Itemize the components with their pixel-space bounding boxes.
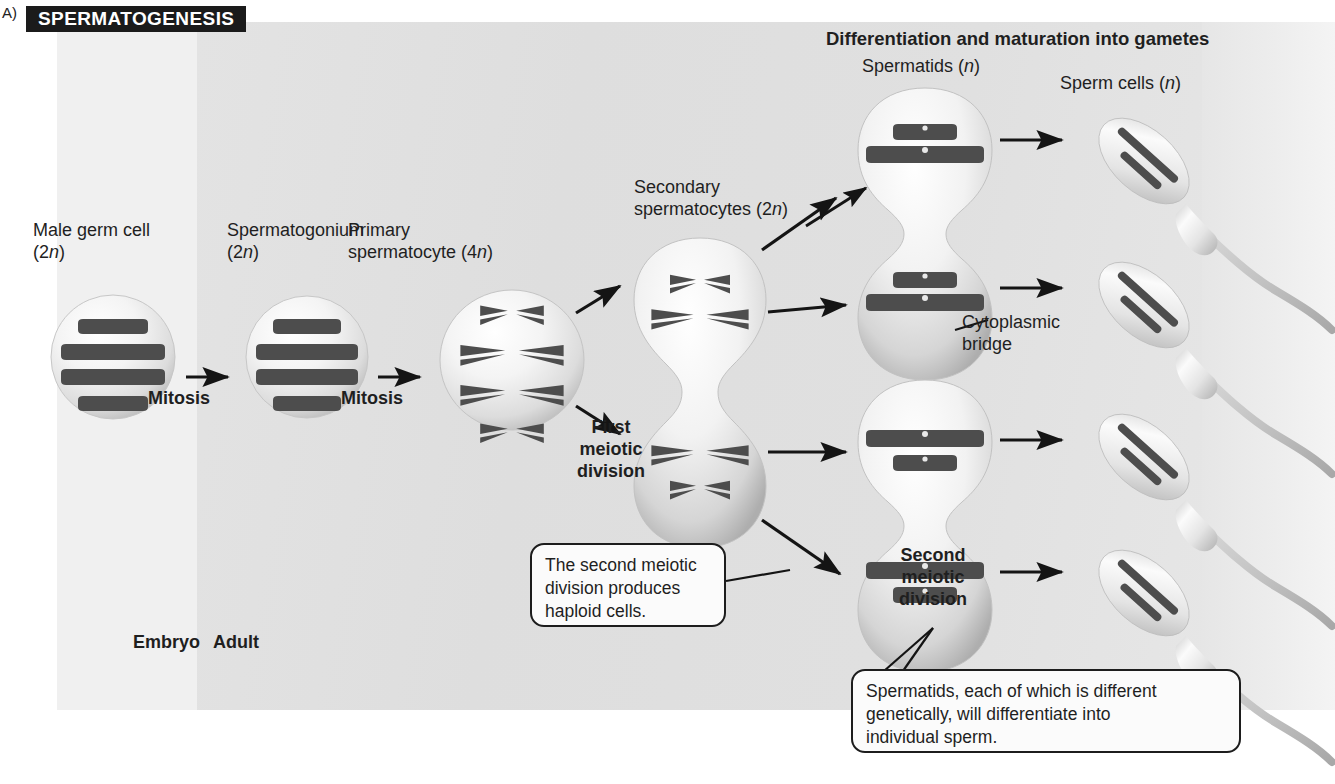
label-cytoplasmic-bridge: Cytoplasmic bridge — [962, 311, 1060, 355]
label-spermatogonium: Spermatogonium (2n) — [227, 219, 364, 263]
figure-title: SPERMATOGENESIS — [26, 6, 246, 32]
arrow-meiosis1-upper — [576, 286, 620, 313]
label-primary-spermatocyte: Primary spermatocyte (4n) — [348, 219, 493, 263]
arrow-meiosis2-4 — [762, 520, 840, 574]
label-mitosis-2: Mitosis — [341, 387, 403, 409]
figure-canvas: A) SPERMATOGENESIS Differentiation and m… — [0, 0, 1335, 784]
label-adult: Adult — [213, 631, 259, 653]
callout-spermatids-differentiate: Spermatids, each of which is different g… — [851, 669, 1241, 753]
callout-haploid-cells: The second meiotic division produces hap… — [530, 543, 726, 627]
label-first-meiotic-division: First meiotic division — [569, 416, 653, 482]
arrow-secondary-label — [806, 188, 866, 226]
label-spermatids: Spermatids (n) — [862, 55, 980, 77]
figure-letter: A) — [2, 4, 17, 21]
label-embryo: Embryo — [133, 631, 200, 653]
label-mitosis-1: Mitosis — [148, 387, 210, 409]
arrow-meiosis2-2 — [768, 305, 846, 312]
label-male-germ-cell: Male germ cell (2n) — [33, 219, 150, 263]
leader-callout-haploid — [726, 570, 790, 581]
label-sperm-cells: Sperm cells (n) — [1060, 72, 1181, 94]
cell-secondary-spermatocytes — [634, 238, 766, 548]
heading-differentiation: Differentiation and maturation into game… — [826, 28, 1209, 50]
cell-primary-spermatocyte — [440, 290, 584, 443]
label-second-meiotic-division: Second meiotic division — [885, 544, 981, 610]
label-secondary-spermatocytes: Secondary spermatocytes (2n) — [634, 176, 788, 220]
